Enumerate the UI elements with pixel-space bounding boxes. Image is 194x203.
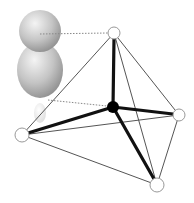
orbital-shape — [17, 10, 63, 123]
central-atom — [107, 101, 119, 113]
vertex-atom-left — [15, 128, 29, 142]
edge-left-right — [22, 115, 179, 135]
bond-right — [113, 107, 173, 114]
bond-top — [113, 39, 114, 107]
vertex-atom-bottom — [150, 178, 164, 192]
edge-right-bottom — [157, 115, 179, 185]
vertex-atom-top — [108, 27, 120, 39]
bond-bottom — [113, 107, 154, 179]
edge-left-bottom — [22, 135, 157, 185]
vertex-atom-right — [173, 109, 185, 121]
edge-top-right — [114, 33, 179, 115]
orbital-upper-lobe — [19, 10, 61, 52]
guide-line-center — [48, 100, 107, 106]
tetrahedron-diagram — [0, 0, 194, 203]
